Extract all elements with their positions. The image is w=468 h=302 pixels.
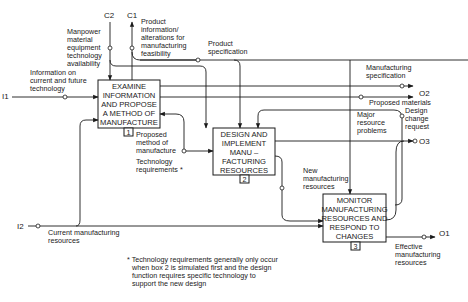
svg-text:requirements *: requirements * (136, 165, 183, 174)
label-tech-req: Technology requirements * (136, 157, 183, 174)
label-i2: I2 (17, 222, 24, 231)
box-2-line-4: FACTURING (222, 157, 266, 166)
box-1-line-1: EXAMINE (112, 82, 146, 91)
label-proposed-method: Proposed method of manufacture (136, 130, 176, 155)
label-product-spec: Product specification (208, 39, 248, 56)
label-current-mfg: Current manufacturing resources (48, 228, 120, 245)
box-3-number: 3 (354, 242, 358, 251)
label-i1: I1 (2, 92, 9, 101)
label-effective-mfg: Effective manufacturing resources (395, 242, 441, 267)
label-o2: O2 (419, 89, 430, 98)
svg-text:resources: resources (48, 236, 80, 245)
box-2-line-3: MANU – (230, 148, 259, 157)
box-1-line-4: A METHOD OF (103, 109, 156, 118)
svg-text:feasibility: feasibility (141, 49, 171, 58)
svg-text:specification: specification (366, 71, 406, 80)
box-3-line-5: CHANGES (336, 232, 374, 241)
label-info-current: Information on current and future techno… (30, 68, 87, 93)
label-product-info: Product information/ alterations for man… (141, 17, 187, 58)
box-2-line-1: DESIGN AND (221, 130, 268, 139)
arrow-manufacturing-specification[interactable] (160, 84, 413, 88)
label-manpower: Manpower material equipment technology a… (67, 27, 102, 68)
box-3[interactable]: MONITOR MANUFACTURING RESOURCES AND RESP… (321, 194, 388, 251)
label-mfg-spec: Manufacturing specification (366, 63, 412, 80)
arrow-o1-output[interactable] (386, 235, 435, 239)
box-2-number: 2 (243, 175, 247, 184)
footnote: * Technology requirements generally only… (127, 255, 278, 288)
arrow-feedback-box1[interactable] (76, 120, 98, 226)
svg-text:specification: specification (208, 47, 248, 56)
box-2[interactable]: DESIGN AND IMPLEMENT MANU – FACTURING RE… (213, 128, 275, 184)
box-1-line-3: AND PROPOSE (101, 100, 157, 109)
svg-text:manufacture: manufacture (136, 146, 176, 155)
label-new-mfg: New manufacturing resources (303, 166, 349, 191)
svg-text:request: request (405, 122, 429, 131)
box-1[interactable]: EXAMINE INFORMATION AND PROPOSE A METHOD… (98, 80, 160, 137)
label-o3: O3 (419, 137, 430, 146)
arrow-i1-input[interactable] (12, 95, 98, 99)
box-1-line-2: INFORMATION (103, 91, 156, 100)
box-1-line-5: MANUFACTURE (100, 118, 158, 127)
label-c1: C1 (127, 11, 138, 20)
idef0-diagram: EXAMINE INFORMATION AND PROPOSE A METHOD… (0, 0, 468, 302)
svg-text:availability: availability (67, 59, 101, 68)
label-design-change: Design change request (405, 106, 429, 131)
label-o1: O1 (439, 229, 450, 238)
box-3-line-4: RESPOND TO (330, 223, 380, 232)
box-2-line-2: IMPLEMENT (222, 139, 267, 148)
label-c2: C2 (104, 11, 115, 20)
svg-text:technology: technology (30, 84, 65, 93)
svg-text:problems: problems (357, 126, 387, 135)
svg-text:resources: resources (395, 258, 427, 267)
label-major-resource: Major resource problems (357, 110, 387, 135)
box-3-line-3: RESOURCES AND (322, 214, 388, 223)
box-3-line-1: MONITOR (337, 196, 373, 205)
box-1-number: 1 (127, 128, 131, 137)
svg-text:resources: resources (303, 182, 335, 191)
svg-text:support the new design: support the new design (132, 279, 206, 288)
box-3-line-2: MANUFACTURING (321, 205, 387, 214)
